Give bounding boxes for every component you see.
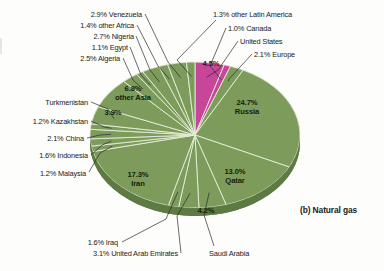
russia-name: Russia [219,107,275,116]
qatar-pct: 13.0% [207,167,263,176]
label-uae: 3.1% United Arab Emirates [48,250,178,259]
label-other-africa: 1.4% other Africa [6,22,134,31]
label-other-latin-america: 1.3% other Latin America [213,11,292,20]
inpie-label-united-states: 4.5% [193,59,229,68]
other-asia-name: other Asia [105,93,161,102]
label-turkmenistan: Turkmenistan [4,99,88,108]
label-nigeria: 2.7% Nigeria [14,33,134,42]
iran-pct: 17.3% [110,170,166,179]
inpie-label-saudi-arabia-pct: 4.2% [186,206,226,215]
label-egypt: 1.1% Egypt [14,44,128,53]
iran-name: Iran [110,179,166,188]
russia-pct: 24.7% [219,98,275,107]
label-malaysia: 1.2% Malaysia [0,170,86,179]
label-iraq: 1.6% Iraq [50,239,118,248]
label-venezuela: 2.9% Venezuela [14,11,142,20]
label-united-states: United States [240,38,282,47]
inpie-label-iran: 17.3% Iran [110,170,166,188]
inpie-label-qatar: 13.0% Qatar [207,167,263,185]
label-kazakhstan: 1.2% Kazakhstan [0,118,88,127]
inpie-label-turkmenistan-pct: 3.9% [93,108,133,117]
label-saudi-arabia: Saudi Arabia [209,250,249,259]
chart-canvas: 2.9% Venezuela 1.4% other Africa 2.7% Ni… [0,0,384,271]
inpie-label-russia: 24.7% Russia [219,98,275,116]
label-indonesia: 1.6% Indonesia [0,152,88,161]
label-canada: 1.0% Canada [228,25,271,34]
qatar-name: Qatar [207,176,263,185]
other-asia-pct: 6.8% [105,84,161,93]
chart-caption: (b) Natural gas [300,205,357,215]
label-china: 2.1% China [0,135,84,144]
label-algeria: 2.5% Algeria [8,55,120,64]
inpie-label-other-asia: 6.8% other Asia [105,84,161,102]
label-europe: 2.1% Europe [254,51,295,60]
